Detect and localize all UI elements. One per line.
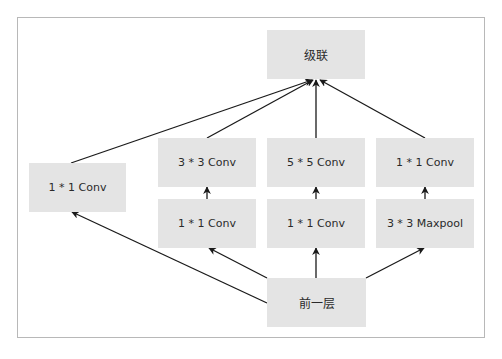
node-concat: 级联 [267,30,365,79]
node-conv1x1_d: 1 * 1 Conv [376,138,474,187]
node-label: 前一层 [299,294,335,311]
node-label: 1 * 1 Conv [287,217,345,230]
node-label: 1 * 1 Conv [396,156,454,169]
node-conv1x1_c: 1 * 1 Conv [267,199,365,248]
node-label: 3 * 3 Conv [178,156,236,169]
node-label: 5 * 5 Conv [287,156,345,169]
node-label: 3 * 3 Maxpool [387,217,463,230]
node-maxpool: 3 * 3 Maxpool [376,199,474,248]
node-conv3x3: 3 * 3 Conv [158,138,256,187]
node-label: 级联 [304,46,328,63]
node-label: 1 * 1 Conv [178,217,236,230]
node-conv5x5: 5 * 5 Conv [267,138,365,187]
node-conv1x1_a: 1 * 1 Conv [29,163,126,212]
node-prev: 前一层 [267,278,366,327]
node-conv1x1_b: 1 * 1 Conv [158,199,256,248]
node-label: 1 * 1 Conv [49,181,107,194]
